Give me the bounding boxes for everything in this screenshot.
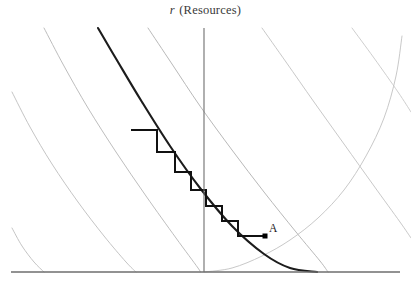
figure-isocline-diagram: r (Resources) A [0, 0, 411, 285]
point-a-marker [263, 234, 268, 239]
diagram-canvas [0, 0, 411, 285]
canvas-background [0, 0, 411, 285]
point-marker-group [263, 234, 268, 239]
